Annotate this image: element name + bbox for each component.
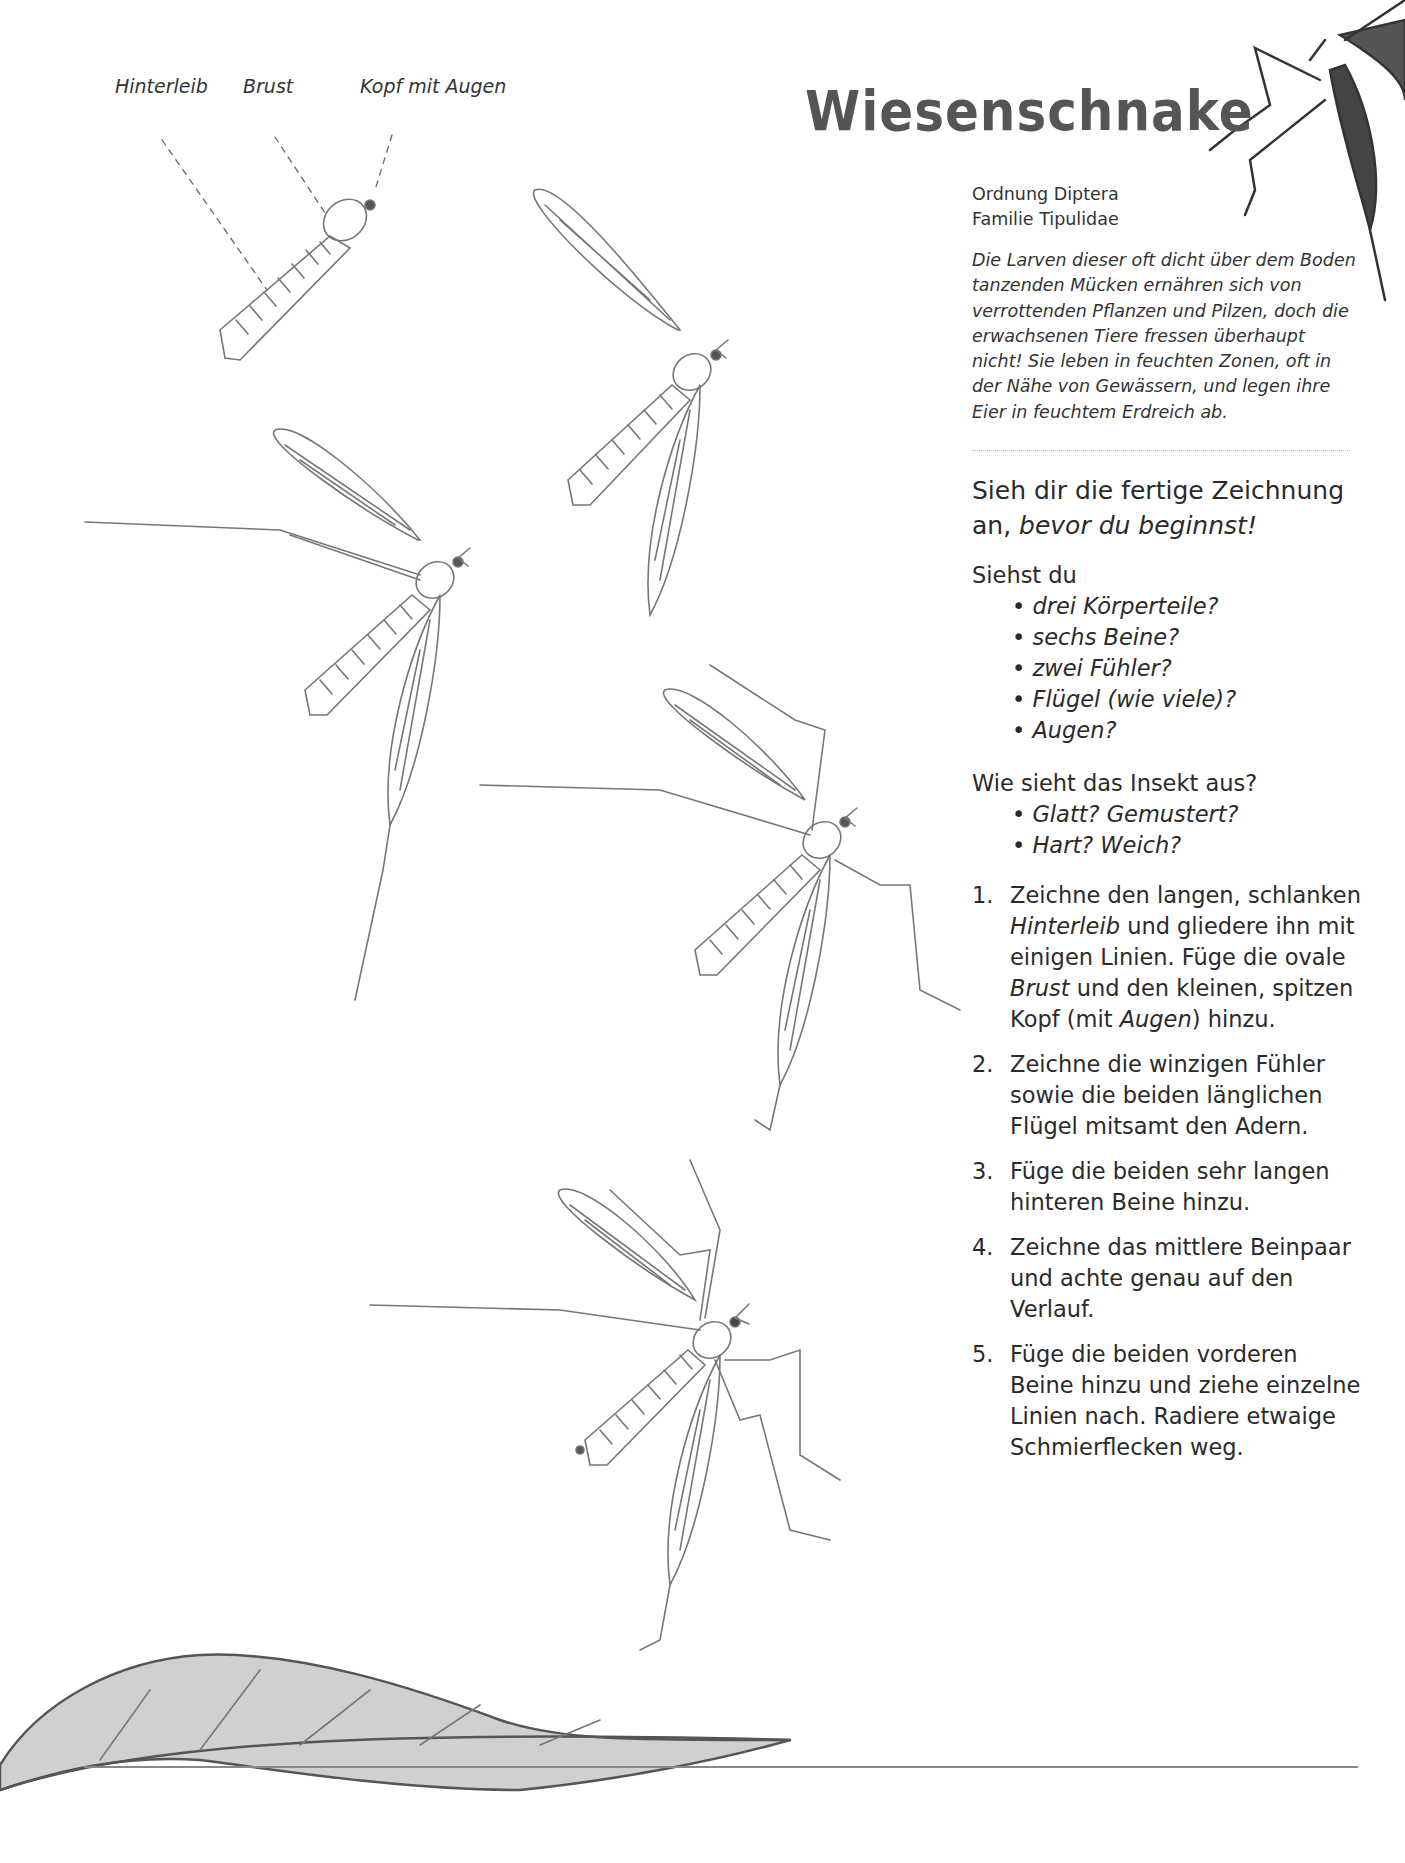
- step-5: 5. Füge die beiden vorderen Beine hinzu …: [972, 1339, 1362, 1463]
- checklist-parts: Siehst du drei Körperteile? sechs Beine?…: [972, 560, 1372, 746]
- checklist-appearance-prompt: Wie sieht das Insekt aus?: [972, 768, 1372, 799]
- checklist-item: drei Körperteile?: [1012, 591, 1372, 622]
- checklist-parts-prompt: Siehst du: [972, 560, 1372, 591]
- species-description: Die Larven dieser oft dicht über dem Bod…: [972, 248, 1357, 425]
- instruction-steps: 1. Zeichne den langen, schlanken Hinterl…: [972, 880, 1362, 1477]
- divider: [972, 450, 1350, 451]
- step-2-wings-drawing: [533, 189, 728, 615]
- step-text: Zeichne den langen, schlanken Hinterleib…: [1010, 880, 1362, 1035]
- taxonomy: Ordnung Diptera Familie Tipulidae: [972, 182, 1372, 232]
- checklist-item: Flügel (wie viele)?: [1012, 684, 1372, 715]
- label-leader-lines: [162, 135, 392, 290]
- checklist-item: sechs Beine?: [1012, 622, 1372, 653]
- step-5-complete-drawing: [370, 1160, 840, 1650]
- step-number: 2.: [972, 1049, 1010, 1142]
- checklist-item: Hart? Weich?: [1012, 830, 1372, 861]
- step-4: 4. Zeichne das mittlere Beinpaar und ach…: [972, 1232, 1362, 1325]
- step-3-hind-legs-drawing: [85, 429, 470, 1000]
- label-thorax: Brust: [243, 75, 293, 97]
- step-number: 4.: [972, 1232, 1010, 1325]
- intro-heading: Sieh dir die fertige Zeichnung an, bevor…: [972, 473, 1352, 543]
- step-text: Füge die beiden vorderen Beine hinzu und…: [1010, 1339, 1362, 1463]
- label-abdomen: Hinterleib: [115, 75, 208, 97]
- checklist-appearance: Wie sieht das Insekt aus? Glatt? Gemuste…: [972, 768, 1372, 861]
- checklist-item: zwei Fühler?: [1012, 653, 1372, 684]
- step-text: Zeichne die winzigen Fühler sowie die be…: [1010, 1049, 1362, 1142]
- page-title: Wiesenschnake: [805, 78, 1254, 143]
- step-1: 1. Zeichne den langen, schlanken Hinterl…: [972, 880, 1362, 1035]
- step-text: Füge die beiden sehr langen hinteren Bei…: [1010, 1156, 1362, 1218]
- step-3: 3. Füge die beiden sehr langen hinteren …: [972, 1156, 1362, 1218]
- step-number: 5.: [972, 1339, 1010, 1463]
- checklist-item: Glatt? Gemustert?: [1012, 799, 1372, 830]
- intro-heading-emphasis: bevor du beginnst!: [1019, 511, 1257, 540]
- step-text: Zeichne das mittlere Beinpaar und achte …: [1010, 1232, 1362, 1325]
- checklist-item: Augen?: [1012, 715, 1372, 746]
- step-number: 1.: [972, 880, 1010, 1035]
- step-1-body-drawing: [220, 191, 375, 360]
- label-head: Kopf mit Augen: [360, 75, 506, 97]
- footer-rule: [84, 1766, 1358, 1768]
- taxonomy-order: Ordnung Diptera: [972, 182, 1372, 207]
- step-2: 2. Zeichne die winzigen Fühler sowie die…: [972, 1049, 1362, 1142]
- leaf-drawing: [0, 1655, 790, 1790]
- taxonomy-family: Familie Tipulidae: [972, 207, 1372, 232]
- step-number: 3.: [972, 1156, 1010, 1218]
- step-4-middle-legs-drawing: [480, 665, 960, 1130]
